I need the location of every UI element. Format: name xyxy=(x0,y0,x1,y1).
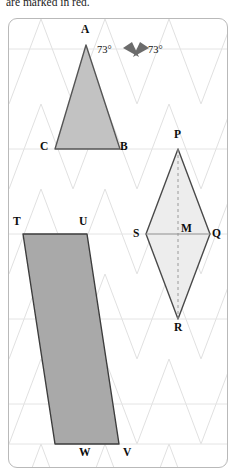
vertex-label-t: T xyxy=(13,216,21,228)
caption-text: are marked in red. xyxy=(6,0,238,9)
vertex-label-c: C xyxy=(40,141,48,153)
figure-frame: A C B P Q M S R T U W V 73° 73° xyxy=(8,18,228,468)
angle-label-left: 73° xyxy=(97,45,112,56)
vertex-label-w: W xyxy=(79,447,91,459)
vertex-label-m: M xyxy=(181,223,192,235)
angle-label-right: 73° xyxy=(148,45,163,56)
vertex-label-b: B xyxy=(120,141,128,153)
vertex-label-v: V xyxy=(123,447,131,459)
vertex-label-q: Q xyxy=(212,228,221,240)
figure-canvas xyxy=(9,19,227,467)
vertex-label-r: R xyxy=(174,322,182,334)
vertex-label-p: P xyxy=(174,129,181,141)
vertex-label-a: A xyxy=(81,24,89,36)
vertex-label-s: S xyxy=(133,228,139,240)
vertex-label-u: U xyxy=(79,216,87,228)
worksheet-page: are marked in red. xyxy=(0,0,244,471)
